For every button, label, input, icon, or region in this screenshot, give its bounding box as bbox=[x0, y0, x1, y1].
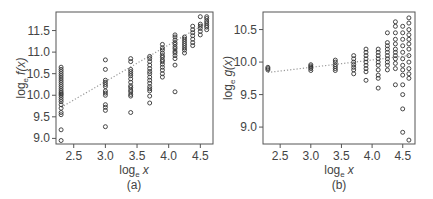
panel-b-frame bbox=[263, 12, 415, 144]
data-point bbox=[401, 93, 405, 97]
data-point bbox=[401, 31, 405, 35]
panel-b-points bbox=[266, 16, 411, 142]
x-tick-label: 3.0 bbox=[302, 149, 319, 163]
data-point bbox=[352, 72, 356, 76]
y-tick-label: 10.0 bbox=[234, 55, 258, 69]
data-point bbox=[103, 67, 107, 71]
data-point bbox=[376, 68, 380, 72]
x-tick-label: 4.0 bbox=[160, 149, 177, 163]
y-tick-label: 11.0 bbox=[28, 45, 51, 59]
y-tick-label: 9.5 bbox=[240, 88, 257, 102]
data-point bbox=[198, 15, 202, 19]
data-point bbox=[385, 68, 389, 72]
x-tick-label: 2.5 bbox=[65, 149, 82, 163]
data-point bbox=[393, 42, 397, 46]
x-tick-label: 4.5 bbox=[192, 149, 209, 163]
data-point bbox=[393, 83, 397, 87]
figure: 2.53.03.54.04.5 9.09.510.010.511.011.5 l… bbox=[0, 0, 433, 199]
data-point bbox=[173, 90, 177, 94]
data-point bbox=[407, 21, 411, 25]
data-point bbox=[401, 63, 405, 67]
y-tick-label: 9.0 bbox=[240, 120, 257, 134]
panel-b-plot: 2.53.03.54.04.5 9.09.510.010.5 logex (b)… bbox=[221, 12, 415, 192]
panel-b-y-axis: 9.09.510.010.5 bbox=[234, 23, 263, 135]
x-tick-label: 3.0 bbox=[97, 149, 114, 163]
data-point bbox=[129, 111, 133, 115]
panel-a-points bbox=[59, 15, 209, 143]
panel-a-x-axis-title: logex bbox=[119, 163, 149, 179]
data-point bbox=[407, 33, 411, 37]
panel-a-plot: 2.53.03.54.04.5 9.09.510.010.511.011.5 l… bbox=[14, 12, 213, 192]
data-point bbox=[407, 138, 411, 142]
data-point bbox=[407, 67, 411, 71]
data-point bbox=[364, 78, 368, 82]
x-tick-label: 3.5 bbox=[333, 149, 350, 163]
panel-a-label: (a) bbox=[127, 178, 142, 192]
panel-a-y-axis: 9.09.510.010.511.011.5 bbox=[27, 24, 56, 146]
data-point bbox=[376, 86, 380, 90]
data-point bbox=[401, 44, 405, 48]
data-point bbox=[393, 24, 397, 28]
data-point bbox=[393, 61, 397, 65]
y-tick-label: 10.5 bbox=[234, 23, 258, 37]
data-point bbox=[148, 94, 152, 98]
panel-b-x-axis-title: logex bbox=[324, 163, 354, 179]
data-point bbox=[407, 54, 411, 58]
data-point bbox=[385, 31, 389, 35]
panel-a-frame bbox=[56, 12, 213, 144]
data-point bbox=[401, 107, 405, 111]
y-tick-label: 10.5 bbox=[27, 67, 51, 81]
data-point bbox=[148, 101, 152, 105]
data-point bbox=[103, 125, 107, 129]
data-point bbox=[407, 16, 411, 20]
y-tick-label: 10.0 bbox=[27, 88, 51, 102]
panel-a-x-axis: 2.53.03.54.04.5 bbox=[65, 144, 209, 163]
data-point bbox=[103, 58, 107, 62]
data-point bbox=[401, 57, 405, 61]
data-point bbox=[393, 67, 397, 71]
panel-b-x-axis: 2.53.03.54.04.5 bbox=[272, 144, 412, 163]
data-point bbox=[59, 139, 63, 143]
data-point bbox=[407, 72, 411, 76]
data-point bbox=[407, 60, 411, 64]
panel-b-y-axis-title: logeg(x) bbox=[221, 56, 237, 100]
panel-b-label: (b) bbox=[332, 178, 347, 192]
y-tick-label: 9.5 bbox=[33, 110, 50, 124]
data-point bbox=[407, 42, 411, 46]
x-tick-label: 4.0 bbox=[364, 149, 381, 163]
data-point bbox=[393, 31, 397, 35]
data-point bbox=[59, 128, 63, 132]
data-point bbox=[407, 47, 411, 51]
data-point bbox=[401, 83, 405, 87]
data-point bbox=[401, 37, 405, 41]
panel-a-y-axis-title: logef(x) bbox=[14, 58, 30, 99]
data-point bbox=[173, 63, 177, 67]
data-point bbox=[401, 50, 405, 54]
data-point bbox=[393, 20, 397, 24]
data-point bbox=[407, 28, 411, 32]
data-point bbox=[401, 24, 405, 28]
y-tick-label: 11.5 bbox=[28, 24, 51, 38]
data-point bbox=[103, 103, 107, 107]
data-point bbox=[407, 37, 411, 41]
x-tick-label: 3.5 bbox=[129, 149, 146, 163]
data-point bbox=[401, 73, 405, 77]
data-point bbox=[393, 37, 397, 41]
y-tick-label: 9.0 bbox=[33, 131, 50, 145]
x-tick-label: 2.5 bbox=[272, 149, 289, 163]
data-point bbox=[401, 130, 405, 134]
data-point bbox=[401, 68, 405, 72]
x-tick-label: 4.5 bbox=[394, 149, 411, 163]
data-point bbox=[407, 76, 411, 80]
